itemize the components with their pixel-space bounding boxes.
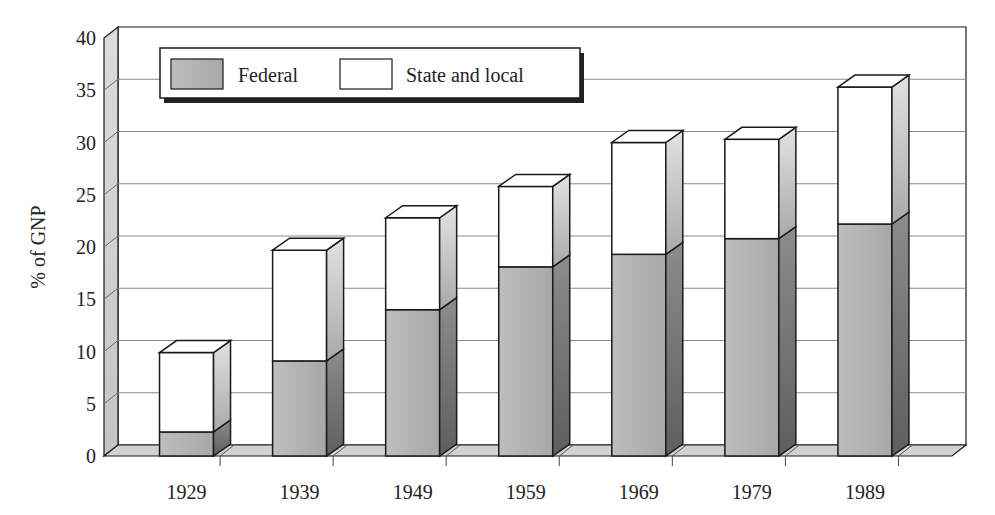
bar-state-side: [327, 238, 344, 361]
x-tick-label: 1969: [619, 481, 659, 503]
stacked-bar-chart: 0510152025303540 19291939194919591969197…: [0, 0, 995, 515]
bar-federal-side: [553, 255, 570, 456]
y-axis-title: % of GNP: [27, 205, 49, 288]
bar-federal-front: [160, 432, 214, 456]
bar-federal-front: [386, 310, 440, 456]
bar-federal-front: [499, 267, 553, 456]
bar-state-front: [612, 143, 666, 255]
bar-state-front: [386, 218, 440, 310]
x-tick-label: 1989: [845, 481, 885, 503]
y-tick-label: 15: [76, 288, 96, 310]
bar-state-side: [440, 206, 457, 310]
x-tick-label: 1949: [393, 481, 433, 503]
bar-state-front: [725, 139, 779, 238]
y-tick-label: 20: [76, 236, 96, 258]
y-tick-label: 30: [76, 132, 96, 154]
y-tick-label: 10: [76, 341, 96, 363]
bar-state-side: [892, 75, 909, 224]
bar-federal-side: [327, 349, 344, 456]
bar-group: [499, 174, 570, 456]
bar-group: [273, 238, 344, 456]
y-tick-label: 35: [76, 79, 96, 101]
bar-state-front: [838, 87, 892, 224]
bar-federal-side: [779, 227, 796, 456]
bar-federal-front: [838, 224, 892, 456]
bar-federal-side: [666, 242, 683, 456]
x-tick-label: 1959: [506, 481, 546, 503]
bar-federal-side: [892, 212, 909, 456]
x-tick-label: 1939: [280, 481, 320, 503]
bar-state-side: [779, 127, 796, 238]
bar-state-side: [214, 341, 231, 432]
y-tick-label: 25: [76, 184, 96, 206]
x-tick-label: 1929: [167, 481, 207, 503]
legend-swatch-federal: [171, 59, 223, 89]
bar-state-side: [553, 174, 570, 266]
bar-state-front: [499, 186, 553, 266]
bar-group: [160, 341, 231, 456]
bar-state-front: [160, 353, 214, 432]
bar-state-front: [273, 250, 327, 361]
legend-swatch-state-and-local: [340, 59, 392, 89]
legend-label-federal: Federal: [238, 64, 298, 86]
y-tick-label: 40: [76, 27, 96, 49]
y-tick-label: 0: [86, 445, 96, 467]
bar-federal-front: [273, 361, 327, 456]
bar-federal-front: [612, 254, 666, 456]
bar-group: [612, 131, 683, 457]
x-tick-label: 1979: [732, 481, 772, 503]
bar-group: [838, 75, 909, 456]
bar-group: [725, 127, 796, 456]
legend-label-state-and-local: State and local: [406, 64, 524, 86]
bar-federal-side: [440, 298, 457, 456]
y-axis-ticks: 0510152025303540: [76, 27, 96, 467]
legend: Federal State and local: [160, 48, 584, 103]
bar-group: [386, 206, 457, 456]
y-tick-label: 5: [86, 393, 96, 415]
bar-state-side: [666, 131, 683, 255]
bar-federal-front: [725, 239, 779, 456]
